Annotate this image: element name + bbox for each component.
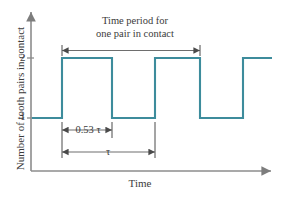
square-wave-series xyxy=(32,58,272,118)
y-tick-label-1: 1 xyxy=(20,111,26,122)
y-tick-label-2: 2 xyxy=(20,52,26,63)
gear-tooth-contact-chart: Number of tooth pairs in contact Time 2 … xyxy=(0,0,283,197)
period-annotation-line2: one pair in contact xyxy=(70,29,200,40)
period-annotation-line1: Time period for xyxy=(102,15,168,26)
period-annotation-label: Time period for one pair in contact xyxy=(70,16,200,39)
tooth-pairs-waveform xyxy=(32,58,272,118)
contact-duration-label: 0.53 τ xyxy=(70,125,106,136)
x-axis-title: Time xyxy=(95,178,185,189)
tau-label: τ xyxy=(98,147,118,158)
y-axis-title: Number of tooth pairs in contact xyxy=(15,19,26,179)
period-annotation-arrow xyxy=(62,45,200,56)
